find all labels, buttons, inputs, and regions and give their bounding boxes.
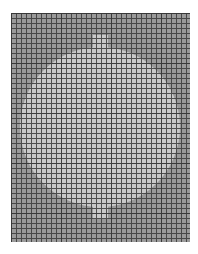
major-gridlines <box>11 13 190 242</box>
grid-chart <box>11 13 190 242</box>
